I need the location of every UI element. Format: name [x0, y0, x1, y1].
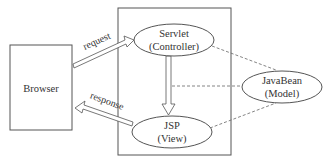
response-arrow: response [75, 90, 133, 126]
jsp-sublabel: (View) [157, 133, 187, 145]
browser-label: Browser [23, 83, 59, 94]
jsp-node: JSP (View) [132, 116, 212, 148]
browser-node: Browser [10, 45, 72, 130]
request-arrow: request [73, 30, 134, 68]
mvc-diagram: Browser request response Servlet (Contro… [0, 0, 328, 164]
javabean-sublabel: (Model) [265, 88, 300, 100]
servlet-model-link [212, 46, 276, 70]
javabean-label: JavaBean [262, 75, 303, 86]
servlet-node: Servlet (Controller) [134, 24, 214, 56]
jsp-label: JSP [164, 120, 180, 131]
servlet-to-jsp-arrow [162, 56, 175, 115]
javabean-node: JavaBean (Model) [242, 71, 322, 103]
jsp-model-link [210, 103, 276, 128]
servlet-sublabel: (Controller) [149, 41, 200, 53]
servlet-label: Servlet [159, 28, 189, 39]
